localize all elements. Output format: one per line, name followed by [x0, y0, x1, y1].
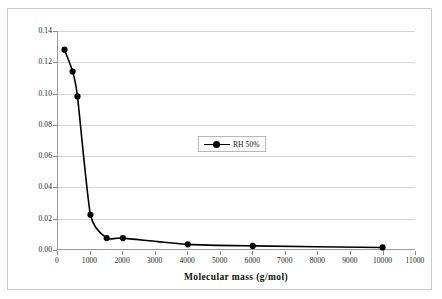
x-axis-tick-mark: [57, 251, 58, 255]
data-point: [87, 212, 93, 218]
x-axis-tick-mark: [383, 251, 384, 255]
data-point: [185, 241, 191, 247]
x-axis-tick-mark: [90, 251, 91, 255]
chart-figure: water content (w/w) 0.000.020.040.060.08…: [0, 0, 442, 299]
y-axis-tick-label: 0.12: [38, 58, 52, 66]
data-point: [379, 244, 385, 250]
y-axis-tick-label: 0.10: [38, 90, 52, 98]
y-axis-tick-label: 0.02: [38, 215, 52, 223]
x-axis-tick-mark: [415, 251, 416, 255]
legend: RH 50%: [198, 136, 266, 152]
data-point: [250, 243, 256, 249]
x-axis-tick-mark: [155, 251, 156, 255]
y-axis-tick-label: 0.08: [38, 121, 52, 129]
x-axis-tick-mark: [317, 251, 318, 255]
data-point: [104, 235, 110, 241]
y-axis-tick-label: 0.04: [38, 183, 52, 191]
legend-line-marker-icon: [204, 140, 230, 149]
y-axis-tick-label: 0.00: [38, 246, 52, 254]
y-axis-tick-label: 0.06: [38, 152, 52, 160]
x-axis-tick-mark: [252, 251, 253, 255]
x-axis-label: Molecular mass (g/mol): [57, 272, 415, 282]
x-axis-tick-label: 11000: [395, 257, 435, 265]
data-point: [70, 68, 76, 74]
x-axis-tick-mark: [187, 251, 188, 255]
data-point: [74, 93, 80, 99]
x-axis-tick-mark: [285, 251, 286, 255]
data-point: [61, 47, 67, 53]
data-point: [120, 235, 126, 241]
y-axis-tick-label: 0.14: [38, 27, 52, 35]
x-axis-tick-mark: [122, 251, 123, 255]
x-axis-tick-mark: [350, 251, 351, 255]
x-axis-tick-mark: [220, 251, 221, 255]
legend-item-label: RH 50%: [233, 140, 260, 149]
